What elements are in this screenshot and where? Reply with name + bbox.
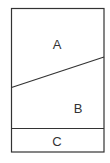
region-c-label: C <box>52 135 61 148</box>
outer-rectangle <box>12 9 105 153</box>
region-a-label: A <box>53 38 62 51</box>
region-b-label: B <box>74 102 83 115</box>
